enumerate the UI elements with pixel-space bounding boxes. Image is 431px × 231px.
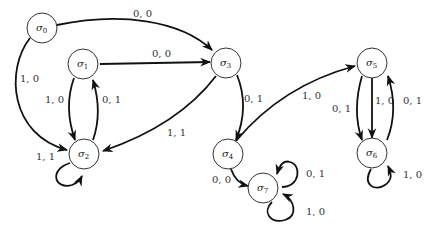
state-s5: σ5 — [357, 48, 387, 78]
state-s6: σ6 — [357, 138, 387, 168]
edge-s3-s4: 0, 1 — [236, 75, 263, 140]
edge-s0-s3: 0, 0 — [57, 8, 212, 50]
state-s4: σ4 — [213, 139, 243, 169]
edge-s7-s7-loop-top: 0, 1 — [277, 162, 325, 188]
state-diagram: 0, 0 1, 0 0, 0 1, 0 0, 1 1, 1 1, 1 0, 1 … — [0, 0, 431, 231]
edge-s6-s5: 0, 1 — [387, 76, 422, 140]
edge-label: 0, 0 — [152, 48, 171, 59]
edge-s1-s2: 1, 0 — [45, 78, 75, 140]
edge-label: 0, 0 — [133, 8, 152, 19]
state-s0: σ0 — [27, 13, 57, 43]
edge-s4-s7: 0, 0 — [212, 169, 248, 186]
edge-label: 0, 1 — [403, 95, 422, 106]
edge-label: 1, 0 — [45, 94, 64, 105]
state-s3: σ3 — [211, 48, 241, 78]
edge-label: 0, 0 — [212, 174, 231, 185]
edge-s7-s7-loop-bottom: 1, 0 — [268, 194, 326, 221]
edge-label: 0, 1 — [332, 103, 351, 114]
edge-s5-s6-a: 0, 1 — [332, 76, 362, 140]
edge-label: 1, 1 — [36, 151, 55, 162]
state-s1: σ1 — [68, 49, 98, 79]
edge-label: 1, 1 — [167, 127, 186, 138]
state-s2: σ2 — [69, 139, 99, 169]
edge-label: 1, 0 — [20, 73, 39, 84]
edge-label: 1, 0 — [302, 90, 321, 101]
edge-label: 0, 1 — [306, 168, 325, 179]
edge-label: 1, 0 — [403, 169, 422, 180]
state-s7: σ7 — [248, 173, 278, 203]
edge-label: 0, 1 — [102, 94, 121, 105]
edge-label: 1, 0 — [375, 95, 394, 106]
edge-s2-s1: 0, 1 — [93, 80, 121, 140]
edge-s1-s3: 0, 0 — [100, 48, 210, 64]
edge-s6-s6-loop: 1, 0 — [368, 166, 422, 188]
edge-label: 1, 0 — [306, 206, 325, 217]
edge-label: 0, 1 — [244, 93, 263, 104]
edge-s3-s2: 1, 1 — [103, 76, 216, 151]
